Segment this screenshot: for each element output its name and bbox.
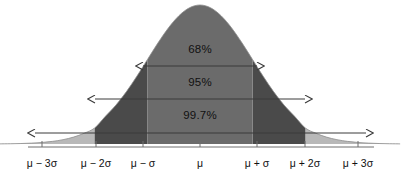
tick-label-minus-2-sigma: μ − 2σ [81,158,111,169]
normal-distribution-figure: 68% 95% 99.7% μ − 3σ μ − 2σ μ − σ μ μ + … [0,0,401,179]
label-95-percent: 95% [188,77,212,89]
tick-label-minus-3-sigma: μ − 3σ [27,158,57,169]
tick-label-plus-3-sigma: μ + 3σ [343,158,373,169]
tail-left-region [0,0,95,144]
tick-label-plus-1-sigma: μ + σ [245,158,270,169]
tick-label-mu: μ [197,158,203,169]
tick-label-plus-2-sigma: μ + 2σ [290,158,320,169]
tail-right-region [305,0,400,144]
within-one-sigma-region [147,0,252,144]
tick-label-minus-1-sigma: μ − σ [131,158,156,169]
label-99-7-percent: 99.7% [183,110,217,122]
label-68-percent: 68% [188,44,212,56]
bell-curve-plot [0,0,401,179]
curve-shaded-areas [0,0,400,144]
